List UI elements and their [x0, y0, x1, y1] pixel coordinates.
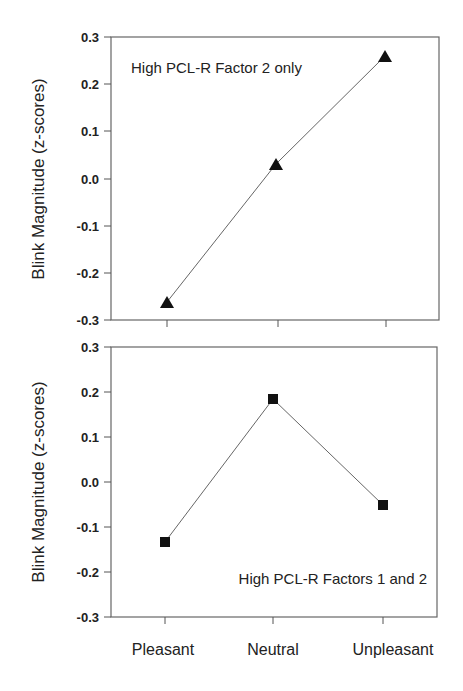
top-ytick-label: 0.3 [81, 30, 99, 45]
square-marker [378, 500, 388, 510]
top-annotation: High PCL-R Factor 2 only [131, 59, 302, 76]
triangle-marker [378, 50, 392, 62]
top-x-ticks [167, 320, 386, 327]
bottom-ytick-label: -0.3 [77, 610, 99, 625]
bottom-series-line [165, 399, 383, 542]
top-ytick-label: -0.3 [77, 313, 99, 328]
top-series-line [167, 56, 385, 302]
square-marker [268, 394, 278, 404]
top-panel: 0.3 0.2 0.1 0.0 -0.1 -0.2 -0.3 Blink Mag… [29, 30, 439, 328]
top-ytick-label: 0.1 [81, 124, 99, 139]
top-plot-frame [111, 37, 439, 320]
bottom-y-ticks [104, 347, 111, 617]
bottom-y-axis-label: Blink Magnitude (z-scores) [29, 381, 48, 582]
top-ytick-label: 0.0 [81, 172, 99, 187]
figure: 0.3 0.2 0.1 0.0 -0.1 -0.2 -0.3 Blink Mag… [0, 0, 463, 691]
bottom-ytick-label: -0.1 [77, 520, 99, 535]
bottom-ytick-label: 0.1 [81, 430, 99, 445]
x-category-label: Neutral [247, 641, 299, 658]
top-y-ticks [104, 37, 111, 320]
top-ytick-label: -0.1 [77, 219, 99, 234]
top-ytick-label: 0.2 [81, 77, 99, 92]
bottom-panel: 0.3 0.2 0.1 0.0 -0.1 -0.2 -0.3 Blink Mag… [29, 340, 437, 658]
bottom-ytick-label: 0.2 [81, 385, 99, 400]
top-y-axis-label: Blink Magnitude (z-scores) [29, 78, 48, 279]
x-category-label: Unpleasant [353, 641, 435, 658]
top-ytick-label: -0.2 [77, 266, 99, 281]
bottom-ytick-label: 0.0 [81, 475, 99, 490]
bottom-annotation: High PCL-R Factors 1 and 2 [239, 570, 427, 587]
triangle-marker [160, 296, 174, 308]
bottom-x-ticks [165, 617, 383, 624]
x-category-label: Pleasant [132, 641, 195, 658]
bottom-ytick-label: -0.2 [77, 565, 99, 580]
square-marker [160, 537, 170, 547]
bottom-ytick-label: 0.3 [81, 340, 99, 355]
